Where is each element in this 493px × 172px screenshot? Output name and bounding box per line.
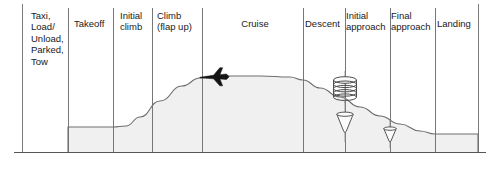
phase-label-final-approach: Final approach <box>391 10 439 33</box>
flight-phase-profile-diagram: Taxi, Load/ Unload, Parked, TowTakeoffIn… <box>0 0 493 172</box>
phase-label-takeoff: Takeoff <box>74 18 118 29</box>
phase-label-initial-climb: Initial climb <box>120 10 156 33</box>
phase-label-cruise: Cruise <box>210 18 300 29</box>
phase-label-climb-flap-up: Climb (flap up) <box>157 10 207 33</box>
phase-label-taxi: Taxi, Load/ Unload, Parked, Tow <box>31 10 71 67</box>
altitude-profile-area <box>68 76 478 152</box>
phase-label-descent: Descent <box>305 18 347 29</box>
phase-label-initial-approach: Initial approach <box>346 10 394 33</box>
phase-label-landing: Landing <box>437 18 479 29</box>
